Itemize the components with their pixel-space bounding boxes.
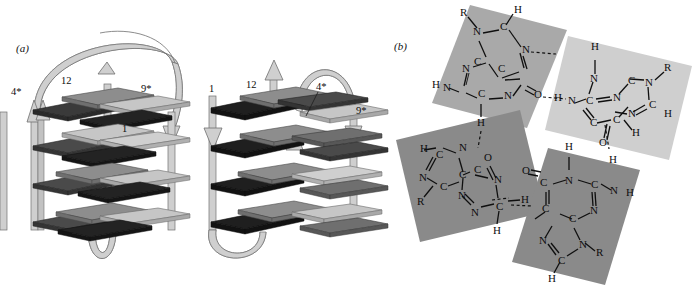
svg-text:H: H bbox=[548, 272, 556, 284]
svg-text:R: R bbox=[460, 6, 468, 18]
svg-text:H: H bbox=[521, 193, 529, 205]
svg-text:N: N bbox=[462, 62, 470, 74]
svg-text:H: H bbox=[626, 186, 634, 198]
svg-text:N: N bbox=[590, 204, 598, 216]
svg-text:N: N bbox=[494, 173, 502, 185]
figure-canvas: (a) (b) bbox=[0, 0, 700, 288]
residue-label-1-left: 1 bbox=[122, 123, 127, 134]
loop-left-descending-right bbox=[204, 96, 222, 230]
svg-text:R: R bbox=[596, 246, 604, 258]
svg-text:C: C bbox=[540, 176, 547, 188]
panel-label-b: (b) bbox=[394, 40, 407, 52]
residue-label-1-right: 1 bbox=[209, 83, 214, 94]
svg-text:N: N bbox=[504, 89, 512, 101]
svg-text:N: N bbox=[522, 43, 530, 55]
svg-text:O: O bbox=[522, 164, 530, 176]
residue-label-4star-left: 4* bbox=[11, 86, 22, 97]
svg-text:N: N bbox=[579, 238, 587, 250]
svg-text:N: N bbox=[645, 76, 653, 88]
svg-text:C: C bbox=[474, 163, 481, 175]
svg-text:O: O bbox=[534, 88, 542, 100]
tetrad-layer-2-right bbox=[211, 125, 388, 161]
svg-text:H: H bbox=[565, 140, 573, 152]
svg-text:N: N bbox=[471, 206, 479, 218]
svg-text:C: C bbox=[613, 113, 620, 125]
svg-text:H: H bbox=[493, 224, 501, 236]
svg-text:N: N bbox=[610, 184, 618, 196]
svg-text:H: H bbox=[514, 3, 522, 15]
svg-text:N: N bbox=[590, 72, 598, 84]
svg-text:H: H bbox=[432, 78, 440, 90]
g-quartet-diagram: R H N C N C N C C N H N O H bbox=[396, 3, 692, 285]
svg-text:C: C bbox=[591, 178, 598, 190]
svg-text:N: N bbox=[458, 189, 466, 201]
svg-text:C: C bbox=[649, 98, 656, 110]
svg-text:N: N bbox=[473, 25, 481, 37]
svg-text:C: C bbox=[496, 200, 503, 212]
svg-text:N: N bbox=[443, 81, 451, 93]
svg-text:C: C bbox=[500, 20, 507, 32]
svg-text:H: H bbox=[609, 153, 617, 165]
loop-bottom-right bbox=[209, 230, 266, 258]
svg-text:O: O bbox=[599, 136, 607, 148]
svg-text:C: C bbox=[440, 180, 447, 192]
tetrad-layer-4-left bbox=[33, 203, 190, 241]
svg-text:H: H bbox=[420, 142, 428, 154]
svg-text:O: O bbox=[484, 151, 492, 163]
residue-label-9star-right: 9* bbox=[356, 105, 367, 116]
figure-svg: 4* 12 9* 1 bbox=[0, 0, 700, 288]
svg-text:H: H bbox=[632, 126, 640, 138]
svg-text:C: C bbox=[498, 62, 505, 74]
svg-text:H: H bbox=[664, 107, 672, 119]
svg-text:H: H bbox=[554, 91, 562, 103]
svg-text:C: C bbox=[474, 55, 481, 67]
svg-text:R: R bbox=[664, 61, 672, 73]
svg-text:C: C bbox=[590, 116, 597, 128]
svg-text:N: N bbox=[459, 141, 467, 153]
svg-text:N: N bbox=[613, 91, 621, 103]
svg-text:C: C bbox=[628, 74, 635, 86]
loop-left-ascending-left bbox=[27, 100, 50, 230]
svg-text:N: N bbox=[539, 234, 547, 246]
svg-text:C: C bbox=[569, 212, 576, 224]
svg-text:N: N bbox=[628, 107, 636, 119]
svg-text:N: N bbox=[419, 171, 427, 183]
residue-label-9star-left: 9* bbox=[141, 83, 152, 94]
svg-text:C: C bbox=[436, 148, 443, 160]
tetrad-layer-3-right bbox=[211, 163, 388, 199]
structure-left-topology: 4* 12 9* 1 bbox=[11, 31, 190, 258]
svg-text:C: C bbox=[459, 168, 466, 180]
svg-text:C: C bbox=[542, 202, 549, 214]
svg-text:C: C bbox=[586, 94, 593, 106]
panel-label-a: (a) bbox=[16, 42, 29, 54]
svg-text:R: R bbox=[417, 195, 425, 207]
svg-text:H: H bbox=[477, 116, 485, 128]
svg-text:N: N bbox=[568, 94, 576, 106]
svg-text:C: C bbox=[478, 87, 485, 99]
residue-label-12-right: 12 bbox=[246, 79, 257, 90]
tetrad-layer-4-right bbox=[211, 201, 388, 237]
tetrad-layer-3-left bbox=[33, 163, 190, 203]
residue-label-4star-right: 4* bbox=[316, 81, 327, 92]
svg-text:H: H bbox=[591, 40, 599, 52]
tetrad-layer-1-left bbox=[33, 88, 190, 131]
residue-label-12-left: 12 bbox=[61, 75, 72, 86]
svg-text:C: C bbox=[558, 254, 565, 266]
svg-text:N: N bbox=[565, 174, 573, 186]
